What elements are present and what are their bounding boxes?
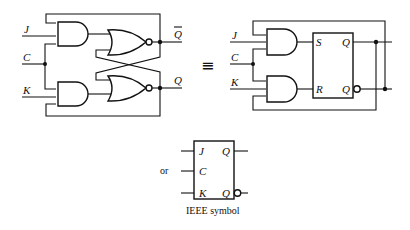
equivalence-symbol: ≡ bbox=[201, 56, 214, 75]
q-bar-label: Q bbox=[342, 83, 350, 95]
s-label: S bbox=[316, 36, 322, 48]
c-label: C bbox=[23, 51, 31, 63]
junction-dot bbox=[43, 62, 47, 66]
inverted-output-bubble bbox=[354, 86, 360, 92]
and-gate-lower bbox=[267, 76, 297, 102]
r-label: R bbox=[315, 83, 323, 95]
junction-dot bbox=[383, 87, 387, 91]
junction-dot bbox=[158, 40, 162, 44]
c-clock-wire bbox=[253, 49, 266, 81]
q-label: Q bbox=[342, 36, 350, 48]
j-label: J bbox=[232, 29, 238, 41]
k-label: K bbox=[230, 76, 239, 88]
c-clock-wire bbox=[45, 44, 56, 89]
q-bar-label: Q bbox=[222, 187, 230, 199]
inverted-output-bubble bbox=[234, 190, 240, 196]
nor-gate-upper bbox=[108, 30, 146, 55]
junction-dot bbox=[251, 62, 255, 66]
k-label: K bbox=[198, 187, 207, 199]
and-gate-upper bbox=[267, 29, 297, 55]
left-circuit: J C K Q Q bbox=[22, 14, 182, 116]
q-label: Q bbox=[222, 145, 230, 157]
nor-bubble-upper bbox=[146, 39, 152, 45]
k-label: K bbox=[22, 84, 31, 96]
ieee-symbol: or J C K Q Q IEEE symbol bbox=[160, 141, 248, 216]
c-label: C bbox=[231, 51, 239, 63]
q-bar-label: Q bbox=[174, 28, 182, 40]
ieee-caption: IEEE symbol bbox=[186, 205, 240, 216]
c-label: C bbox=[199, 165, 207, 177]
nor-gate-lower bbox=[108, 76, 146, 101]
junction-dot bbox=[374, 40, 378, 44]
q-label: Q bbox=[174, 74, 182, 86]
jk-flipflop-diagram: J C K Q Q ≡ S R Q Q bbox=[0, 0, 410, 230]
and-gate-upper bbox=[58, 22, 88, 46]
right-circuit: S R Q Q J C K bbox=[230, 21, 392, 110]
junction-dot bbox=[158, 86, 162, 90]
nor-bubble-lower bbox=[146, 85, 152, 91]
j-label: J bbox=[24, 23, 30, 35]
or-label: or bbox=[160, 165, 169, 176]
and-gate-lower bbox=[58, 82, 88, 106]
